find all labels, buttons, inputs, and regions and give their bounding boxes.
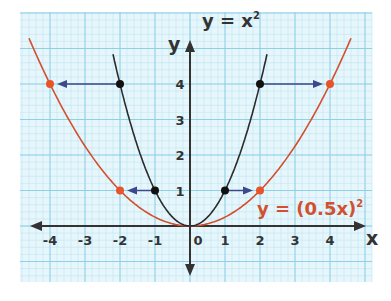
graph-figure: -4-3-2-101234 1234 y x y = x2 y = (0.5x)… (0, 0, 391, 301)
y-tick-label: 3 (175, 113, 184, 128)
label-half-x-squared-text: y = (0.5x) (257, 198, 356, 219)
point-x-squared (151, 187, 159, 195)
x-tick-label: -4 (43, 233, 57, 248)
x-tick-label: -1 (148, 233, 162, 248)
y-tick-label: 4 (175, 77, 184, 92)
point-half-x-squared (116, 187, 124, 195)
y-tick-label: 2 (175, 148, 184, 163)
point-half-x-squared (46, 80, 54, 88)
point-half-x-squared (326, 80, 334, 88)
point-x-squared (256, 80, 264, 88)
point-half-x-squared (256, 187, 264, 195)
x-tick-label: 2 (255, 233, 264, 248)
label-x-squared: y = x2 (202, 10, 260, 31)
point-x-squared (116, 80, 124, 88)
label-half-x-squared-exponent: 2 (356, 198, 363, 209)
y-axis-label: y (168, 33, 181, 55)
label-x-squared-exponent: 2 (253, 10, 260, 21)
x-tick-label: -3 (78, 233, 92, 248)
x-tick-label: 3 (290, 233, 299, 248)
x-tick-label: 4 (325, 233, 334, 248)
label-half-x-squared: y = (0.5x)2 (257, 198, 363, 219)
x-tick-label: 0 (193, 233, 202, 248)
label-x-squared-text: y = x (202, 10, 253, 31)
y-tick-label: 1 (175, 184, 184, 199)
x-tick-label: 1 (220, 233, 229, 248)
x-tick-label: -2 (113, 233, 127, 248)
point-x-squared (221, 187, 229, 195)
x-axis-label: x (366, 227, 378, 249)
